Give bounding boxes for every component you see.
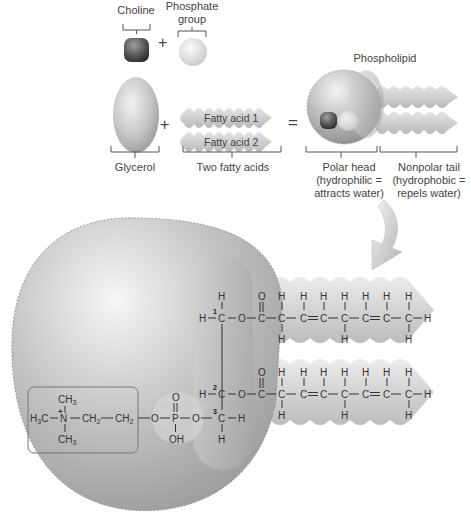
- svg-text:C: C: [405, 313, 412, 324]
- svg-text:H: H: [218, 434, 225, 445]
- svg-text:C: C: [362, 313, 369, 324]
- svg-text:C: C: [383, 313, 390, 324]
- svg-text:2: 2: [213, 384, 217, 391]
- svg-text:H: H: [238, 413, 245, 424]
- svg-text:H: H: [405, 410, 412, 421]
- svg-text:C: C: [341, 313, 348, 324]
- svg-text:H: H: [300, 367, 307, 378]
- svg-text:O: O: [258, 291, 266, 302]
- svg-text:C: C: [320, 313, 327, 324]
- svg-text:O: O: [151, 413, 159, 424]
- svg-text:H: H: [300, 291, 307, 302]
- svg-text:C: C: [405, 389, 412, 400]
- svg-text:H: H: [383, 291, 390, 302]
- svg-text:C: C: [383, 389, 390, 400]
- svg-text:P: P: [172, 413, 179, 424]
- svg-text:C: C: [258, 313, 265, 324]
- svg-text:H: H: [278, 334, 285, 345]
- svg-text:C: C: [218, 389, 225, 400]
- svg-text:C: C: [362, 389, 369, 400]
- svg-text:H: H: [341, 291, 348, 302]
- svg-text:H: H: [199, 313, 206, 324]
- svg-text:C: C: [320, 389, 327, 400]
- svg-text:H: H: [278, 410, 285, 421]
- svg-text:H: H: [320, 291, 327, 302]
- phospholipid-structure: CH3 H3C N + CH2 CH2 CH3 O P O OH O H H 1…: [0, 0, 471, 521]
- fatty-acid-chain-2-formula: O C H C H H C H C H C H H C H C H C H H: [258, 367, 431, 421]
- svg-text:C: C: [278, 313, 285, 324]
- svg-text:H: H: [199, 389, 206, 400]
- svg-text:OH: OH: [169, 434, 184, 445]
- svg-text:H: H: [405, 367, 412, 378]
- svg-text:C: C: [218, 313, 225, 324]
- svg-text:H: H: [341, 410, 348, 421]
- svg-text:O: O: [192, 413, 200, 424]
- svg-text:H: H: [405, 334, 412, 345]
- svg-text:C: C: [258, 389, 265, 400]
- svg-text:H: H: [218, 291, 225, 302]
- svg-text:C: C: [218, 413, 225, 424]
- fatty-acid-chain-1-formula: O C H C H H C H C H C H H C H C H C H H: [258, 291, 431, 345]
- svg-text:C: C: [300, 389, 307, 400]
- svg-text:O: O: [238, 313, 246, 324]
- svg-text:H: H: [362, 367, 369, 378]
- svg-text:H: H: [278, 367, 285, 378]
- svg-text:H: H: [424, 389, 431, 400]
- svg-text:H: H: [341, 334, 348, 345]
- svg-text:1: 1: [213, 308, 217, 315]
- svg-text:C: C: [278, 389, 285, 400]
- svg-text:+: +: [58, 407, 63, 416]
- svg-text:H: H: [405, 291, 412, 302]
- svg-text:C: C: [341, 389, 348, 400]
- svg-text:C: C: [300, 313, 307, 324]
- svg-text:H: H: [320, 367, 327, 378]
- svg-text:O: O: [172, 392, 180, 403]
- svg-text:H: H: [424, 313, 431, 324]
- svg-text:O: O: [238, 389, 246, 400]
- svg-text:H: H: [383, 367, 390, 378]
- svg-text:3: 3: [213, 408, 217, 415]
- svg-text:H: H: [362, 291, 369, 302]
- svg-text:H: H: [278, 291, 285, 302]
- svg-text:O: O: [258, 367, 266, 378]
- svg-text:H: H: [341, 367, 348, 378]
